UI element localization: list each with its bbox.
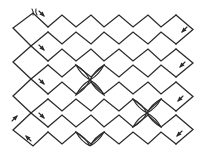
arrow-right-4-icon <box>176 131 182 137</box>
zigzag-strand-2 <box>48 32 176 44</box>
zigzag-weave-drawing <box>0 0 205 156</box>
zigzag-strand-1 <box>48 15 176 27</box>
zigzag-strand-5 <box>48 82 176 94</box>
arrow-right-1-icon <box>181 27 187 33</box>
right-turn-3 <box>176 82 193 111</box>
arrow-left-4-icon <box>39 113 45 119</box>
right-turn-4 <box>176 115 193 144</box>
arrow-left-2-icon <box>39 45 45 51</box>
arrow-left-up-icon <box>12 115 18 121</box>
zigzag-strand-3 <box>48 49 176 61</box>
arrow-top-start-icon <box>39 11 45 17</box>
arrow-right-2-icon <box>179 62 185 68</box>
knot-diagram <box>0 0 205 156</box>
zigzag-strand-8 <box>48 132 176 144</box>
left-lattice-path-2 <box>13 32 48 94</box>
zigzag-strand-4 <box>48 65 176 77</box>
arrow-left-3-icon <box>39 79 45 85</box>
arrow-right-3-icon <box>177 96 183 102</box>
direction-arrows <box>12 11 187 141</box>
